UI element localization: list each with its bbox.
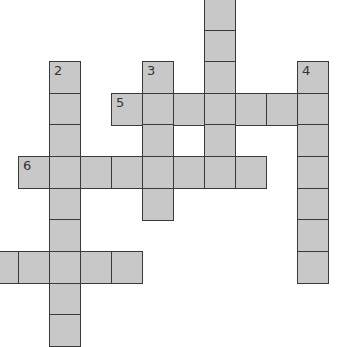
- crossword-cell[interactable]: [235, 156, 267, 189]
- crossword-cell[interactable]: [49, 156, 81, 189]
- crossword-cell[interactable]: [111, 251, 143, 284]
- crossword-cell-clue-6[interactable]: 6: [18, 156, 50, 189]
- crossword-cell[interactable]: [266, 93, 298, 126]
- crossword-cell-clue-5[interactable]: 5: [111, 93, 143, 126]
- crossword-cell[interactable]: [142, 156, 174, 189]
- crossword-cell[interactable]: [173, 93, 205, 126]
- clue-number: 4: [302, 64, 310, 77]
- crossword-cell[interactable]: [204, 0, 236, 32]
- crossword-cell[interactable]: [204, 61, 236, 94]
- crossword-cell[interactable]: [49, 283, 81, 316]
- clue-number: 5: [116, 96, 124, 109]
- crossword-cell[interactable]: [80, 156, 112, 189]
- crossword-cell[interactable]: [297, 188, 329, 221]
- crossword-cell[interactable]: [297, 124, 329, 157]
- clue-number: 6: [23, 159, 31, 172]
- crossword-cell[interactable]: [49, 93, 81, 126]
- crossword-cell[interactable]: [204, 30, 236, 63]
- crossword-cell[interactable]: [49, 124, 81, 157]
- clue-number: 2: [54, 64, 62, 77]
- crossword-cell[interactable]: [297, 251, 329, 284]
- crossword-cell[interactable]: [49, 251, 81, 284]
- crossword-cell[interactable]: [142, 93, 174, 126]
- crossword-cell[interactable]: [0, 251, 19, 284]
- crossword-cell-clue-4[interactable]: 4: [297, 61, 329, 94]
- crossword-cell[interactable]: [235, 93, 267, 126]
- crossword-cell[interactable]: [49, 219, 81, 252]
- crossword-cell[interactable]: [111, 156, 143, 189]
- crossword-cell[interactable]: [204, 93, 236, 126]
- crossword-cell[interactable]: [142, 124, 174, 157]
- crossword-cell[interactable]: [204, 156, 236, 189]
- crossword-cell[interactable]: [80, 251, 112, 284]
- crossword-cell-clue-2[interactable]: 2: [49, 61, 81, 94]
- clue-number: 3: [147, 64, 155, 77]
- crossword-cell[interactable]: [18, 251, 50, 284]
- crossword-cell[interactable]: [297, 156, 329, 189]
- crossword-cell[interactable]: [49, 314, 81, 347]
- crossword-cell[interactable]: [297, 93, 329, 126]
- crossword-cell[interactable]: [49, 188, 81, 221]
- crossword-cell[interactable]: [297, 219, 329, 252]
- crossword-cell-clue-3[interactable]: 3: [142, 61, 174, 94]
- crossword-cell[interactable]: [204, 124, 236, 157]
- crossword-cell[interactable]: [142, 188, 174, 221]
- crossword-cell[interactable]: [173, 156, 205, 189]
